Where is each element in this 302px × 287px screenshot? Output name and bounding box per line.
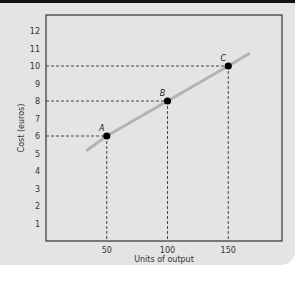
y-tick-label: 12 — [30, 27, 40, 36]
x-tick-label: 50 — [102, 246, 112, 255]
y-tick-label: 8 — [35, 97, 40, 106]
x-tick-label: 150 — [221, 246, 236, 255]
point-label: C — [220, 54, 226, 63]
dashed-guides — [46, 66, 228, 241]
y-tick-label: 6 — [35, 132, 40, 141]
point-label: A — [98, 124, 104, 133]
data-points: ABC — [98, 54, 232, 140]
chart-svg: 123456789101112 50100150 ABC Units of ou… — [0, 0, 302, 287]
y-tick-label: 4 — [35, 167, 40, 176]
y-tick-label: 1 — [35, 220, 40, 229]
point-b — [164, 97, 171, 104]
point-label: B — [160, 89, 166, 98]
y-tick-label: 7 — [35, 115, 40, 124]
y-axis-ticks: 123456789101112 — [30, 27, 40, 229]
y-tick-label: 5 — [35, 150, 40, 159]
y-tick-label: 11 — [30, 45, 40, 54]
y-axis-title: Cost (euros) — [17, 104, 26, 153]
point-c — [225, 62, 232, 69]
x-axis-title: Units of output — [134, 255, 194, 264]
x-axis-ticks: 50100150 — [102, 246, 236, 255]
y-tick-label: 9 — [35, 80, 40, 89]
plot-frame — [46, 15, 282, 241]
y-tick-label: 10 — [30, 62, 40, 71]
y-tick-label: 3 — [35, 185, 40, 194]
point-a — [103, 132, 110, 139]
x-tick-label: 100 — [160, 246, 175, 255]
y-tick-label: 2 — [35, 202, 40, 211]
